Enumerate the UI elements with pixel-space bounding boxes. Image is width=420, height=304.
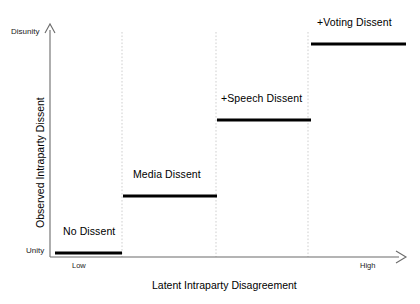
step-chart: No Dissent Media Dissent +Speech Dissent… — [0, 0, 420, 304]
gridlines — [122, 32, 308, 257]
y-axis-high-label: Disunity — [11, 28, 39, 36]
x-axis-low-tick-label: Low — [72, 262, 86, 270]
y-axis — [45, 24, 55, 257]
step-label-voting-dissent: +Voting Dissent — [317, 17, 392, 28]
step-label-speech-dissent: +Speech Dissent — [221, 93, 302, 104]
step-lines — [55, 44, 406, 253]
x-axis-high-tick-label: High — [360, 262, 375, 270]
step-label-no-dissent: No Dissent — [63, 226, 115, 237]
chart-canvas — [0, 0, 420, 304]
y-axis-title: Observed Intraparty Dissent — [34, 97, 46, 228]
y-axis-low-label: Unity — [26, 247, 44, 255]
x-axis-title: Latent Intraparty Disagreement — [152, 280, 297, 291]
step-label-media-dissent: Media Dissent — [133, 169, 201, 180]
